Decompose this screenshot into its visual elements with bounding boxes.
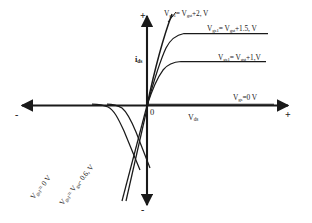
label-text: = V: [230, 53, 241, 62]
plot-canvas: [0, 0, 312, 223]
origin-label: 0: [150, 108, 154, 117]
y-axis-minus-sign: -: [141, 205, 144, 215]
curve-label-vgs-zero: Vgs=0 V: [233, 94, 257, 103]
x-axis-plus-sign: +: [285, 110, 291, 120]
label-text: +2, V: [192, 9, 208, 18]
x-axis-label-sub: ds: [194, 116, 198, 122]
curve-q3-middle: [107, 104, 150, 168]
y-axis-plus-sign: +: [140, 11, 146, 21]
label-text: +1,V: [246, 53, 261, 62]
y-axis-label: ids: [135, 55, 142, 65]
curve-label-vgs-plus-1p5: Vgs1= Vgst+1.5, V: [207, 25, 257, 34]
label-text: =0 V: [242, 93, 257, 102]
curve-label-vgs-plus-1: Vgs1= Vgst+1,V: [218, 54, 261, 63]
x-axis-label: Vds: [188, 114, 198, 122]
label-text: = V: [176, 9, 187, 18]
label-text: = V: [219, 24, 230, 33]
y-axis-label-sub: ds: [137, 58, 142, 64]
curve-label-vgs-plus-2: Vgs1= Vgst+2, V: [164, 10, 208, 19]
quadrant3-curves: [92, 102, 150, 201]
iv-characteristics-figure: + - - + 0 ids Vds Vgs1= Vgst+2, V Vgs1= …: [0, 0, 312, 223]
x-axis-minus-sign: -: [15, 110, 18, 120]
curve-q3-steep-a: [122, 106, 147, 202]
label-text: +1.5, V: [235, 24, 257, 33]
